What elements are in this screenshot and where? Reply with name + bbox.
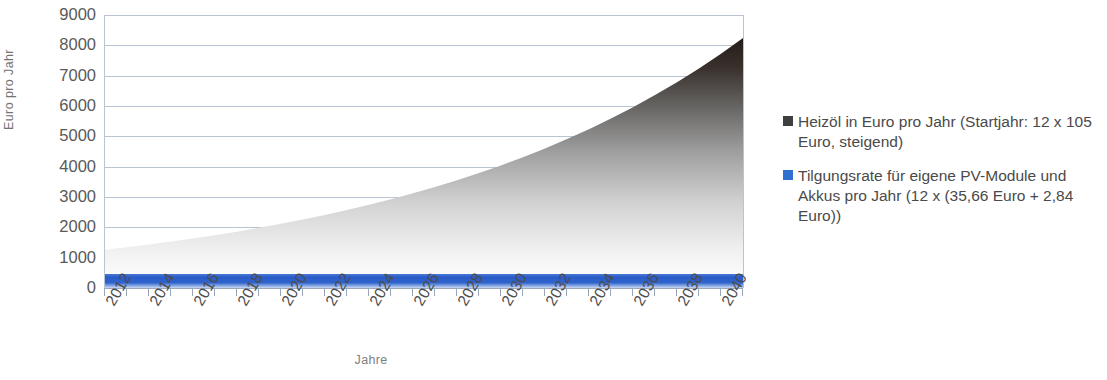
y-axis-tick-labels: 9000800070006000500040003000200010000 [28,0,96,300]
y-axis-tick-label: 3000 [28,188,96,205]
chart-legend: Heizöl in Euro pro Jahr (Startjahr: 12 x… [783,112,1098,240]
y-axis-tick-label: 4000 [28,158,96,175]
area-series-svg [105,15,743,288]
y-axis-tick-label: 5000 [28,127,96,144]
legend-label: Tilgungsrate für eigene PV-Module und Ak… [798,166,1098,226]
chart-container: Euro pro Jahr 90008000700060005000400030… [0,0,1107,380]
legend-entry[interactable]: Tilgungsrate für eigene PV-Module und Ak… [783,166,1098,226]
y-axis-tick-label: 8000 [28,36,96,53]
y-axis-title: Euro pro Jahr [2,0,24,130]
plot-inner [105,15,743,288]
legend-label: Heizöl in Euro pro Jahr (Startjahr: 12 x… [798,112,1098,152]
y-axis-tick-label: 0 [28,279,96,296]
y-axis-tick-label: 7000 [28,67,96,84]
x-axis-title: Jahre [0,353,742,367]
heizoel-area-path [105,38,743,288]
plot-area [104,15,744,288]
y-axis-tick-label: 6000 [28,97,96,114]
legend-swatch-icon [783,170,793,180]
legend-swatch-icon [783,116,793,126]
y-axis-tick-label: 9000 [28,6,96,23]
y-axis-tick-label: 1000 [28,249,96,266]
legend-entry[interactable]: Heizöl in Euro pro Jahr (Startjahr: 12 x… [783,112,1098,152]
y-axis-tick-label: 2000 [28,218,96,235]
